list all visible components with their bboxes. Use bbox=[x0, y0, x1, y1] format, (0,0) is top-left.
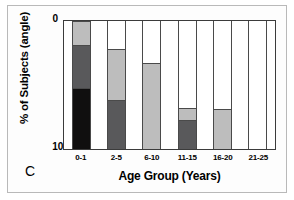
bar-segment-dark-gray bbox=[73, 45, 90, 87]
bar-group bbox=[64, 21, 275, 149]
bar-segment-black bbox=[73, 88, 90, 149]
bar-segment-light-gray bbox=[73, 21, 90, 45]
bar-slot bbox=[240, 21, 275, 149]
bar-segment-white bbox=[249, 21, 266, 149]
bar-segment-dark-gray bbox=[108, 100, 125, 149]
bar-segment-light-gray bbox=[179, 108, 196, 120]
bar-segment-light-gray bbox=[143, 63, 160, 149]
x-tick-16-20: 16-20 bbox=[205, 153, 241, 162]
bar-slot bbox=[64, 21, 99, 149]
x-tick-0-1: 0-1 bbox=[63, 153, 99, 162]
bar-slot bbox=[205, 21, 240, 149]
bar-slot bbox=[134, 21, 169, 149]
bar-segment-white bbox=[108, 21, 125, 49]
x-tick-2-5: 2-5 bbox=[99, 153, 135, 162]
bar-slot bbox=[99, 21, 134, 149]
bar-16-20[interactable] bbox=[213, 21, 232, 149]
plot-area bbox=[63, 20, 276, 150]
bar-slot bbox=[170, 21, 205, 149]
x-tick-6-10: 6-10 bbox=[134, 153, 170, 162]
bar-0-1[interactable] bbox=[72, 21, 91, 149]
bar-segment-light-gray bbox=[214, 109, 231, 149]
y-tick-label-100: 0 bbox=[28, 13, 58, 24]
x-axis-label: Age Group (Years) bbox=[63, 169, 276, 183]
x-tick-11-15: 11-15 bbox=[170, 153, 206, 162]
panel-letter: C bbox=[25, 163, 35, 179]
bar-segment-dark-gray bbox=[179, 120, 196, 149]
bar-segment-light-gray bbox=[108, 49, 125, 100]
x-tick-labels: 0-12-56-1011-1516-2021-25 bbox=[63, 153, 276, 162]
x-tick-21-25: 21-25 bbox=[241, 153, 277, 162]
figure-panel-c: % of Subjects (angle) 0 100 0-12-56-1011… bbox=[0, 0, 294, 200]
bar-21-25[interactable] bbox=[248, 21, 267, 149]
bar-2-5[interactable] bbox=[107, 21, 126, 149]
bar-segment-white bbox=[214, 21, 231, 109]
bar-segment-white bbox=[143, 21, 160, 63]
bar-6-10[interactable] bbox=[142, 21, 161, 149]
bar-11-15[interactable] bbox=[178, 21, 197, 149]
bar-segment-white bbox=[179, 21, 196, 108]
